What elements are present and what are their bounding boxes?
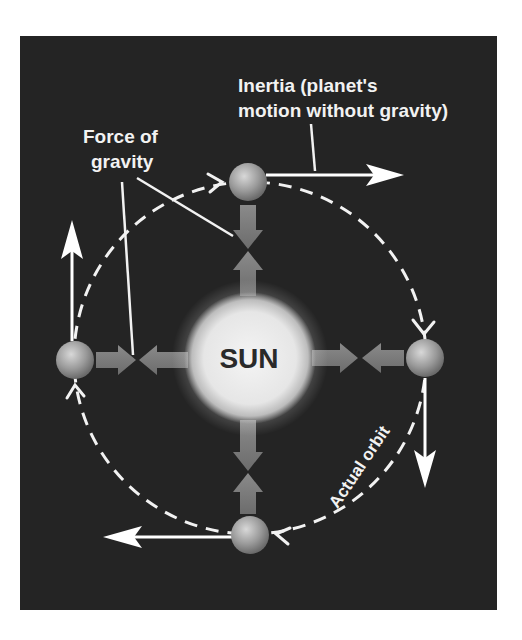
gravity-label-line2: gravity <box>91 151 154 172</box>
planet-top <box>229 163 267 201</box>
orbit-diagram: SUN Inertia (planet's motion without gra… <box>0 0 522 640</box>
sun-label: SUN <box>219 343 278 374</box>
planet-bottom <box>231 516 269 554</box>
inertia-label-line1: Inertia (planet's <box>238 75 378 96</box>
planet-left <box>56 341 94 379</box>
gravity-label-line1: Force of <box>83 126 159 147</box>
planet-right <box>406 339 444 377</box>
inertia-label-line2: motion without gravity) <box>238 100 448 121</box>
